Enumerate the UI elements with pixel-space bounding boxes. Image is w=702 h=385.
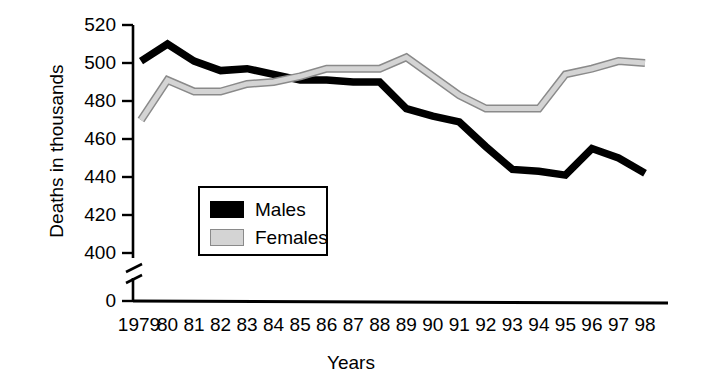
- legend-item-females: Females: [210, 224, 328, 250]
- y-axis-ticks: [122, 25, 133, 301]
- y-axis-title: Deaths in thousands: [46, 41, 68, 261]
- x-axis-title: Years: [0, 352, 702, 374]
- chart-legend: Males Females: [198, 186, 328, 256]
- x-tick-label: 98: [632, 315, 659, 334]
- x-tick-label: 92: [472, 315, 499, 334]
- chart-figure: 5205004804604404204000 19798081828384858…: [0, 0, 702, 385]
- x-tick-label: 88: [366, 315, 393, 334]
- axis-break-upper: [126, 264, 142, 272]
- x-tick-label: 89: [393, 315, 420, 334]
- x-tick-label: 83: [234, 315, 261, 334]
- x-tick-label: 80: [154, 315, 181, 334]
- data-series-layer: [141, 44, 645, 175]
- x-tick-label: 90: [419, 315, 446, 334]
- x-tick-label: 86: [313, 315, 340, 334]
- x-tick-label: 93: [499, 315, 526, 334]
- legend-label-females: Females: [255, 228, 328, 247]
- x-tick-label: 95: [552, 315, 579, 334]
- x-tick-label: 84: [260, 315, 287, 334]
- y-tick-label: 520: [40, 15, 116, 34]
- x-axis-line: [133, 301, 668, 303]
- x-tick-label: 97: [605, 315, 632, 334]
- x-tick-label: 96: [578, 315, 605, 334]
- x-tick-label: 94: [525, 315, 552, 334]
- legend-swatch-females-icon: [210, 229, 244, 246]
- legend-label-males: Males: [255, 200, 306, 219]
- x-tick-label: 82: [207, 315, 234, 334]
- x-tick-label: 91: [446, 315, 473, 334]
- y-tick-label: 0: [40, 291, 116, 310]
- legend-item-males: Males: [210, 196, 306, 222]
- x-tick-label: 81: [181, 315, 208, 334]
- x-tick-label: 87: [340, 315, 367, 334]
- legend-swatch-males-icon: [210, 201, 244, 218]
- x-tick-label: 85: [287, 315, 314, 334]
